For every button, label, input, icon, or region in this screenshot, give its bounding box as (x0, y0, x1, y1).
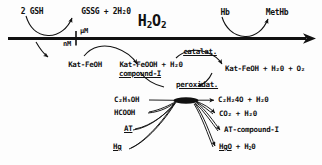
peroxidase-node (174, 97, 199, 103)
h2o2-h: H (138, 12, 147, 30)
nanomolar-tick-label: nM (63, 41, 71, 48)
hb-methb-curve (222, 17, 268, 37)
peroxidase-enzyme-label: peroxidat. (176, 81, 218, 89)
methb-product-label: MetHb (266, 9, 289, 17)
hb-substrate-label: Hb (220, 9, 229, 17)
compound-i-label-line2: compound-I (119, 70, 161, 78)
gsh-gssg-curve (26, 16, 72, 36)
gssg-product-label: GSSG + 2H₂0 (81, 8, 131, 16)
product-mercuric-oxide-label: HgO + H20 (219, 143, 256, 151)
product-output-curves (194, 100, 220, 147)
substrate-ethanol-label: C₂H₅OH (114, 96, 139, 104)
h2o2-sub-2b: 2 (161, 19, 166, 30)
hgo-underlined-part: HgO (219, 142, 232, 151)
gsh-substrate-label: 2 GSH (21, 8, 44, 16)
product-carbon-dioxide-label: CO₂ + H₂0 (219, 110, 257, 118)
product-acetaldehyde-label: C₂H₂4O + H₂0 (218, 96, 269, 104)
h2o2-entry-curve (36, 42, 48, 57)
substrate-at-label: AT (124, 125, 132, 133)
catalase-product-label: Kat-FeOH + H₂0 + O₂ (225, 65, 305, 73)
substrate-input-curves (129, 100, 176, 149)
micromolar-tick-label: µM (80, 28, 88, 35)
product-at-compound-i-label: AT-compound-I (224, 126, 279, 134)
substrate-formic-acid-label: HCOOH (114, 109, 135, 117)
substrate-mercury-label: Hg (113, 143, 121, 151)
compound-i-label-line1: Kat-FeOOH + H₂0 (119, 61, 182, 69)
catalase-enzyme-label: catalat. (183, 48, 217, 56)
kat-feoh-reactant-label: Kat-FeOH (68, 61, 102, 69)
hgo-rest: + H20 (232, 142, 256, 151)
reaction-pathway-diagram: 2 GSH GSSG + 2H₂0 Hb MetHb H2O2 nM µM Ka… (0, 0, 322, 165)
h2o2-axis-label: H2O2 (138, 14, 167, 30)
